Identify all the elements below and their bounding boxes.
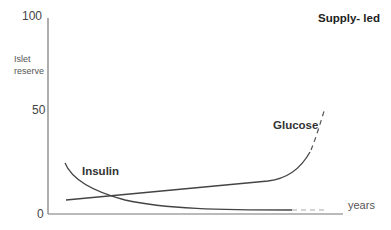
glucose-label: Glucose xyxy=(273,119,318,131)
chart-title: Supply- led xyxy=(318,12,380,24)
y-axis-label: Islet reserve xyxy=(14,53,44,77)
y-tick-0: 0 xyxy=(37,207,44,221)
x-axis-label: years xyxy=(348,199,375,211)
chart-canvas xyxy=(0,0,391,230)
insulin-label: Insulin xyxy=(82,165,119,177)
y-tick-100: 100 xyxy=(22,9,42,23)
y-tick-50: 50 xyxy=(32,103,45,117)
y-axis-label-line1: Islet xyxy=(14,53,44,65)
y-axis-label-line2: reserve xyxy=(14,65,44,77)
